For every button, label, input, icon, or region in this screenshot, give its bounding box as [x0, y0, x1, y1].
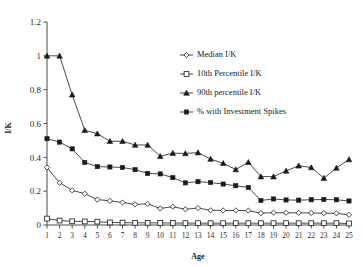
data-point	[271, 221, 276, 226]
x-tick-label: 20	[282, 231, 290, 240]
data-point	[246, 221, 251, 226]
data-point	[158, 221, 163, 226]
data-point	[145, 220, 150, 225]
y-axis-title: I/K	[4, 121, 13, 133]
data-point	[284, 221, 289, 226]
x-tick-label: 10	[157, 231, 165, 240]
data-point	[334, 198, 338, 202]
data-point	[57, 140, 61, 144]
x-tick-label: 23	[320, 231, 328, 240]
y-tick-label: 0.4	[30, 153, 42, 163]
data-point	[108, 165, 112, 169]
data-point	[297, 198, 301, 202]
data-point	[183, 221, 188, 226]
data-point	[133, 220, 138, 225]
data-point	[158, 172, 162, 176]
x-tick-label: 12	[182, 231, 190, 240]
y-tick-label: 1.2	[30, 17, 41, 27]
data-point	[284, 198, 288, 202]
data-point	[271, 197, 275, 201]
data-point	[133, 168, 137, 172]
data-point	[296, 221, 301, 226]
x-tick-label: 1	[45, 231, 49, 240]
x-tick-label: 18	[257, 231, 265, 240]
x-tick-label: 15	[219, 231, 227, 240]
line-chart: 00.20.40.60.811.2 1234567891011121314151…	[0, 0, 363, 267]
data-point	[45, 137, 49, 141]
legend-label: Median I/K	[197, 49, 237, 59]
data-point	[309, 221, 314, 226]
data-point	[70, 219, 75, 224]
data-point	[196, 180, 200, 184]
data-point	[259, 198, 263, 202]
x-tick-label: 3	[70, 231, 74, 240]
data-point	[233, 221, 238, 226]
data-point	[95, 219, 100, 224]
legend-label: 90th percentile I/K	[197, 87, 262, 97]
data-point	[45, 216, 50, 221]
data-point	[108, 220, 113, 225]
x-tick-label: 16	[232, 231, 240, 240]
data-point	[196, 221, 201, 226]
y-tick-label: 0.6	[30, 119, 42, 129]
data-point	[120, 220, 125, 225]
data-point	[347, 221, 352, 226]
data-point	[82, 219, 87, 224]
data-point	[171, 176, 175, 180]
x-tick-label: 22	[308, 231, 316, 240]
chart-background	[0, 0, 363, 267]
y-tick-label: 0.2	[30, 186, 41, 196]
data-point	[234, 184, 238, 188]
data-point	[146, 171, 150, 175]
data-point	[221, 221, 226, 226]
data-point	[95, 165, 99, 169]
data-point	[347, 199, 351, 203]
x-tick-label: 2	[58, 231, 62, 240]
x-tick-label: 17	[245, 231, 253, 240]
x-axis-title: Age	[191, 252, 205, 261]
data-point	[208, 180, 212, 184]
legend-marker	[184, 110, 188, 114]
data-point	[120, 165, 124, 169]
y-tick-label: 0.8	[30, 85, 42, 95]
data-point	[170, 221, 175, 226]
x-tick-label: 19	[270, 231, 278, 240]
data-point	[309, 198, 313, 202]
data-point	[183, 181, 187, 185]
legend-label: 10th Percentile I/K	[197, 68, 263, 78]
x-tick-label: 24	[333, 231, 341, 240]
data-point	[208, 221, 213, 226]
x-tick-label: 8	[133, 231, 137, 240]
legend-label: % with Investment Spikes	[197, 106, 286, 116]
x-tick-label: 4	[83, 231, 87, 240]
x-tick-label: 21	[295, 231, 303, 240]
y-tick-label: 0	[37, 220, 42, 230]
legend-marker	[184, 72, 189, 77]
data-point	[57, 218, 62, 223]
x-tick-label: 11	[169, 231, 176, 240]
data-point	[259, 221, 264, 226]
data-point	[70, 147, 74, 151]
x-tick-label: 9	[146, 231, 150, 240]
x-tick-label: 7	[121, 231, 125, 240]
x-tick-label: 14	[207, 231, 215, 240]
data-point	[322, 197, 326, 201]
data-point	[83, 160, 87, 164]
data-point	[321, 221, 326, 226]
data-point	[246, 185, 250, 189]
x-tick-label: 13	[194, 231, 202, 240]
x-tick-label: 25	[345, 231, 353, 240]
chart-container: 00.20.40.60.811.2 1234567891011121314151…	[0, 0, 363, 267]
data-point	[334, 221, 339, 226]
x-tick-label: 5	[95, 231, 99, 240]
data-point	[221, 182, 225, 186]
y-tick-label: 1	[37, 51, 42, 61]
x-tick-label: 6	[108, 231, 112, 240]
